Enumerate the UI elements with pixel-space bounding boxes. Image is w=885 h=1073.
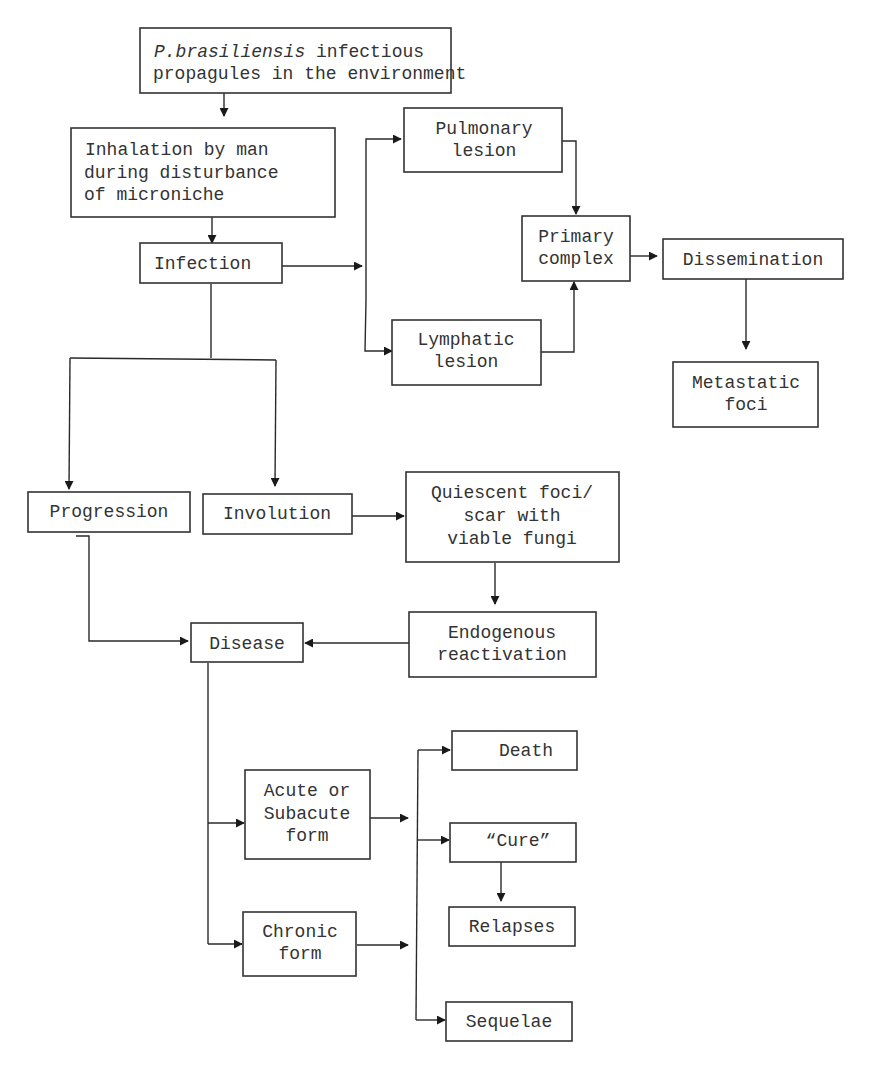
svg-text:Dissemination: Dissemination (683, 250, 823, 270)
node-infection: Infection (140, 243, 282, 283)
svg-text:Relapses: Relapses (469, 917, 555, 937)
svg-text:Subacute: Subacute (264, 804, 350, 824)
edge-infection-split (70, 284, 276, 360)
edge-progression-to-disease (76, 536, 188, 641)
paracoccidioidomycosis-flowchart: P.brasiliensis infectious propagules in … (0, 0, 885, 1073)
svg-text:“Cure”: “Cure” (486, 831, 551, 851)
svg-text:viable fungi: viable fungi (447, 529, 577, 549)
edge-branch-to-lymphatic (365, 300, 392, 351)
svg-text:of microniche: of microniche (84, 185, 224, 205)
edge-split-to-progression (69, 358, 70, 489)
node-lymphatic-lesion: Lymphatic lesion (392, 320, 541, 385)
svg-text:foci: foci (724, 395, 767, 415)
svg-text:P.brasiliensis infectious: P.brasiliensis infectious (154, 42, 424, 62)
svg-text:Lymphatic: Lymphatic (417, 330, 514, 350)
svg-text:scar with: scar with (463, 506, 560, 526)
svg-text:Sequelae: Sequelae (466, 1012, 552, 1032)
node-disease: Disease (191, 623, 303, 662)
edge-outcomes-trunk (416, 750, 418, 1020)
node-involution: Involution (203, 494, 352, 534)
node-cure: “Cure” (450, 823, 576, 862)
svg-text:Chronic: Chronic (262, 922, 338, 942)
svg-text:complex: complex (538, 249, 614, 269)
node-acute-subacute-form: Acute or Subacute form (245, 770, 370, 859)
svg-text:Primary: Primary (538, 227, 614, 247)
organism-name: P.brasiliensis (154, 42, 305, 62)
svg-text:form: form (278, 944, 321, 964)
node-inhalation: Inhalation by man during disturbance of … (71, 128, 335, 217)
svg-text:reactivation: reactivation (437, 645, 567, 665)
node-progression: Progression (28, 492, 190, 532)
node-propagules: P.brasiliensis infectious propagules in … (140, 28, 466, 93)
node-death: Death (452, 731, 577, 770)
svg-text:form: form (285, 826, 328, 846)
svg-text:lesion: lesion (452, 141, 517, 161)
svg-text:during disturbance: during disturbance (84, 163, 278, 183)
svg-text:Involution: Involution (223, 504, 331, 524)
svg-text:Infection: Infection (154, 254, 251, 274)
node-dissemination: Dissemination (663, 239, 843, 279)
svg-text:Inhalation by man: Inhalation by man (85, 140, 269, 160)
node-metastatic-foci: Metastatic foci (673, 362, 818, 427)
svg-text:Endogenous: Endogenous (448, 623, 556, 643)
node-primary-complex: Primary complex (522, 216, 630, 281)
svg-text:Pulmonary: Pulmonary (435, 119, 532, 139)
svg-text:Quiescent foci/: Quiescent foci/ (431, 483, 593, 503)
node-chronic-form: Chronic form (243, 912, 356, 976)
node-quiescent-foci: Quiescent foci/ scar with viable fungi (406, 472, 619, 562)
edge-branch-to-pulmonary (366, 139, 401, 300)
node-pulmonary-lesion: Pulmonary lesion (404, 108, 562, 172)
edge-pulmonary-to-primary (562, 141, 576, 214)
svg-text:Death: Death (499, 741, 553, 761)
svg-text:propagules in the environment: propagules in the environment (153, 64, 466, 84)
svg-text:Disease: Disease (209, 634, 285, 654)
svg-text:lesion: lesion (434, 352, 499, 372)
edge-lymphatic-to-primary (540, 282, 574, 352)
node-endogenous-reactivation: Endogenous reactivation (409, 612, 596, 677)
node-relapses: Relapses (449, 907, 575, 946)
edge-split-to-involution (275, 360, 276, 486)
svg-text:Progression: Progression (50, 502, 169, 522)
node-sequelae: Sequelae (446, 1002, 572, 1041)
svg-text:Acute or: Acute or (264, 781, 350, 801)
svg-text:Metastatic: Metastatic (692, 373, 800, 393)
